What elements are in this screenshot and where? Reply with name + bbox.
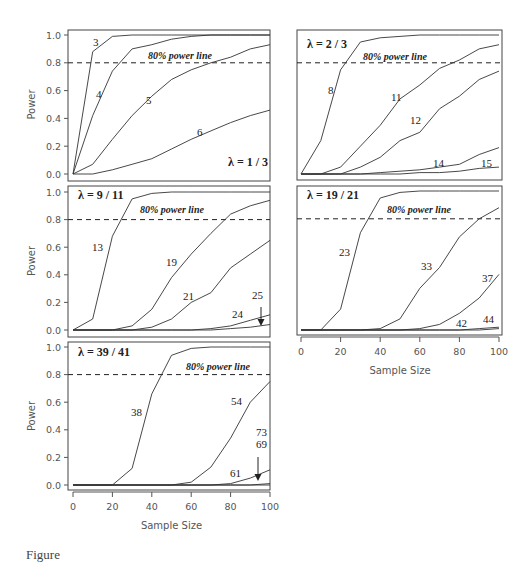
x-tick-label: 0 <box>70 501 76 512</box>
y-tick-label: 0.2 <box>46 452 61 463</box>
x-tick-label: 40 <box>374 346 386 357</box>
y-tick-label: 1.0 <box>46 187 61 198</box>
lambda-label: λ = 19 / 21 <box>307 188 359 202</box>
curve-label: 44 <box>483 313 495 325</box>
curve-label: 33 <box>421 260 433 272</box>
lambda-label: λ = 2 / 3 <box>307 37 347 51</box>
power-line-label: 80% power line <box>186 361 250 372</box>
panel-5: 0.00.20.40.60.81.0Power020406080100Sampl… <box>26 342 279 532</box>
power-curve-25 <box>73 325 270 331</box>
curve-label: 13 <box>92 241 104 253</box>
y-axis-title: Power <box>26 245 37 276</box>
x-tick-label: 100 <box>261 501 279 512</box>
y-tick-label: 0.6 <box>46 397 61 408</box>
x-tick-label: 60 <box>185 501 197 512</box>
x-tick-label: 40 <box>146 501 158 512</box>
lambda-label: λ = 9 / 11 <box>78 188 123 202</box>
y-tick-label: 0.8 <box>46 214 61 225</box>
curve-label: 38 <box>131 406 143 418</box>
curve-label: 19 <box>166 256 178 268</box>
curve-label: 6 <box>197 126 203 138</box>
y-tick-label: 1.0 <box>46 30 61 41</box>
arrowhead-icon <box>255 474 262 481</box>
y-tick-label: 0.6 <box>46 242 61 253</box>
x-axis-title: Sample Size <box>369 365 430 376</box>
x-tick-label: 20 <box>106 501 118 512</box>
power-curve-33 <box>301 208 499 330</box>
y-tick-label: 0.0 <box>46 480 61 491</box>
power-line-label: 80% power line <box>387 204 451 215</box>
y-tick-label: 0.2 <box>46 141 61 152</box>
y-tick-label: 0.4 <box>46 269 61 280</box>
curve-label: 24 <box>232 308 244 320</box>
curve-label: 15 <box>481 157 493 169</box>
curve-label: 5 <box>146 94 152 106</box>
curve-label: 14 <box>433 157 445 169</box>
curve-label: 8 <box>328 84 334 96</box>
y-tick-label: 0.2 <box>46 297 61 308</box>
x-tick-label: 100 <box>490 346 508 357</box>
panel-2: 80% power line811121415λ = 2 / 3 <box>297 30 502 180</box>
curve-label: 42 <box>456 317 467 329</box>
x-tick-label: 60 <box>414 346 426 357</box>
x-tick-label: 80 <box>453 346 465 357</box>
power-line-label: 80% power line <box>140 204 204 215</box>
y-tick-label: 0.4 <box>46 113 61 124</box>
curve-label: 25 <box>252 289 264 301</box>
y-axis-title: Power <box>26 88 37 119</box>
curve-label: 4 <box>96 88 102 100</box>
y-tick-label: 0.8 <box>46 57 61 68</box>
y-tick-label: 0.0 <box>46 325 61 336</box>
figure-caption: Figure <box>26 547 60 563</box>
x-axis-title: Sample Size <box>141 520 202 531</box>
y-tick-label: 0.6 <box>46 85 61 96</box>
y-tick-label: 1.0 <box>46 342 61 353</box>
curve-label: 11 <box>391 91 402 103</box>
lambda-label: λ = 39 / 41 <box>78 345 130 359</box>
curve-label: 73 <box>256 426 268 438</box>
curve-label: 37 <box>482 272 494 284</box>
power-line-label: 80% power line <box>148 50 212 61</box>
panel-3: 0.00.20.40.60.81.0Power80% power line131… <box>26 186 270 337</box>
x-tick-label: 80 <box>225 501 237 512</box>
power-line-label: 80% power line <box>363 51 427 62</box>
curve-label: 3 <box>93 36 99 48</box>
curve-label: 61 <box>230 467 241 479</box>
lambda-label: λ = 1 / 3 <box>228 155 268 169</box>
x-tick-label: 20 <box>335 346 347 357</box>
curve-label: 21 <box>183 290 194 302</box>
x-tick-label: 0 <box>298 346 304 357</box>
panel-1: 0.00.20.40.60.81.0Power80% power line345… <box>26 30 270 182</box>
power-curve-11 <box>301 45 499 174</box>
power-curve-37 <box>301 274 499 330</box>
panel-4: 020406080100Sample Size80% power line233… <box>297 186 508 376</box>
y-tick-label: 0.8 <box>46 369 61 380</box>
y-tick-label: 0.0 <box>46 169 61 180</box>
y-axis-title: Power <box>26 400 37 431</box>
curve-label: 69 <box>256 438 268 450</box>
curve-label: 54 <box>231 395 243 407</box>
curve-label: 23 <box>339 246 351 258</box>
curve-label: 12 <box>410 114 421 126</box>
y-tick-label: 0.4 <box>46 424 61 435</box>
